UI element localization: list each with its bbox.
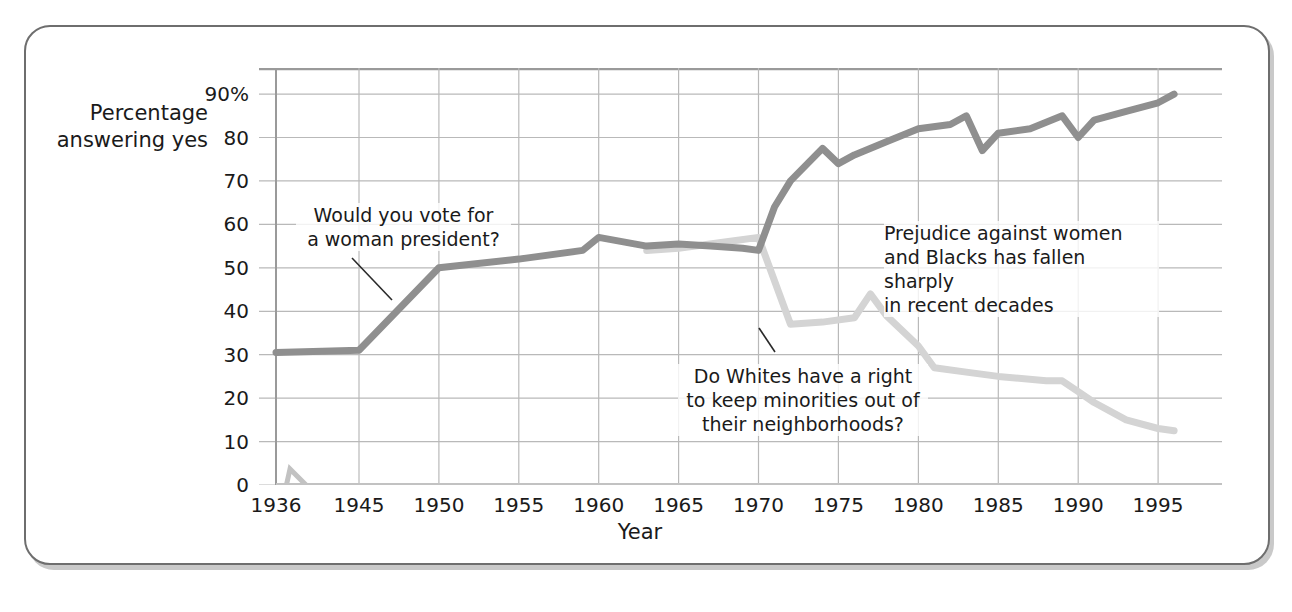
- y-axis-tick-label: 90%: [187, 82, 249, 106]
- y-axis-tick-label: 30: [187, 343, 249, 367]
- x-axis-tick-label: 1955: [493, 493, 544, 517]
- annotation-whites-neighborhoods: Do Whites have a right to keep minoritie…: [678, 364, 928, 436]
- x-axis-tick-label: 1990: [1053, 493, 1104, 517]
- y-axis-tick-label: 40: [187, 299, 249, 323]
- x-axis-tick-label: 1945: [334, 493, 385, 517]
- x-axis-tick-label: 1995: [1133, 493, 1184, 517]
- y-axis-tick-label: 60: [187, 212, 249, 236]
- y-axis-title: Percentage answering yes: [48, 100, 208, 154]
- y-axis-tick-label: 20: [187, 386, 249, 410]
- figure-root: Percentage answering yes Year Would you …: [0, 0, 1292, 612]
- y-axis-tick-label: 0: [187, 473, 249, 497]
- y-axis-tick-label: 10: [187, 430, 249, 454]
- x-axis-tick-label: 1985: [973, 493, 1024, 517]
- x-axis-tick-label: 1960: [573, 493, 624, 517]
- y-axis-tick-label: 70: [187, 169, 249, 193]
- x-axis-title: Year: [618, 520, 662, 544]
- x-axis-tick-label: 1975: [813, 493, 864, 517]
- y-axis-tick-label: 50: [187, 256, 249, 280]
- x-axis-tick-label: 1936: [251, 493, 302, 517]
- x-axis-tick-label: 1965: [653, 493, 704, 517]
- y-axis-tick-label: 80: [187, 126, 249, 150]
- x-axis-tick-label: 1980: [893, 493, 944, 517]
- annotation-summary: Prejudice against women and Blacks has f…: [884, 221, 1159, 317]
- x-axis-tick-label: 1950: [413, 493, 464, 517]
- x-axis-tick-label: 1970: [733, 493, 784, 517]
- annotation-women-president: Would you vote for a woman president?: [296, 203, 511, 251]
